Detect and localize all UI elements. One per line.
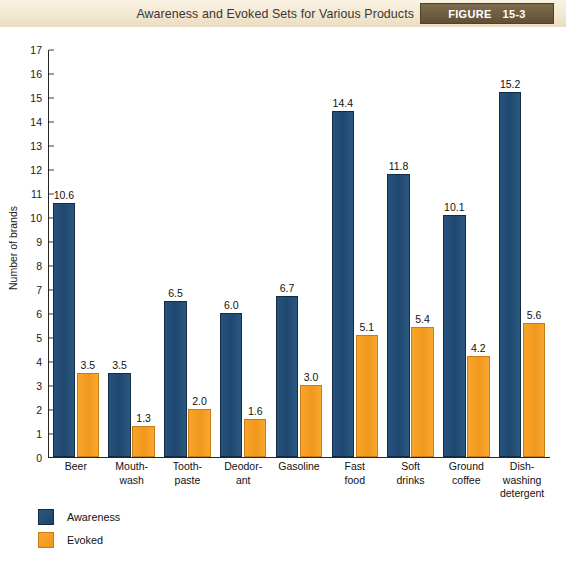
bar-value-label: 1.3 (136, 412, 151, 424)
y-tick-label: 7 (16, 284, 42, 296)
y-tick-mark (49, 170, 54, 171)
bar-value-label: 11.8 (389, 160, 409, 172)
y-tick-label: 13 (16, 140, 42, 152)
y-tick-label: 17 (16, 44, 42, 56)
y-tick-mark (49, 146, 54, 147)
legend-swatch-awareness (38, 509, 54, 525)
y-tick-label: 1 (16, 428, 42, 440)
y-tick-mark (49, 98, 54, 99)
y-tick-label: 14 (16, 116, 42, 128)
figure-page: Awareness and Evoked Sets for Various Pr… (0, 0, 566, 563)
bar-evoked (188, 409, 211, 457)
y-tick-mark (49, 122, 54, 123)
bar-value-label: 14.4 (333, 97, 353, 109)
bar-evoked (132, 426, 155, 457)
bar-awareness (276, 296, 299, 457)
bar-value-label: 4.2 (471, 342, 486, 354)
bar-chart: Number of brands 01234567891011121314151… (0, 27, 566, 563)
bar-awareness (499, 92, 522, 457)
plot-area: 0123456789101112131415161710.63.5Beer3.5… (48, 50, 550, 458)
legend-swatch-evoked (38, 532, 54, 548)
bar-value-label: 6.0 (224, 299, 239, 311)
bar-value-label: 5.1 (359, 321, 374, 333)
bar-awareness (332, 111, 355, 457)
x-tick-label: Dish- washing detergent (483, 460, 561, 501)
y-tick-label: 16 (16, 68, 42, 80)
legend-item: Evoked (38, 528, 120, 551)
y-tick-label: 12 (16, 164, 42, 176)
bar-evoked (244, 419, 267, 457)
y-tick-label: 9 (16, 236, 42, 248)
bar-awareness (387, 174, 410, 457)
y-tick-label: 3 (16, 380, 42, 392)
y-tick-mark (49, 50, 54, 51)
bar-value-label: 1.6 (248, 405, 263, 417)
legend-label: Evoked (67, 534, 103, 546)
bar-value-label: 3.5 (112, 359, 127, 371)
y-tick-label: 10 (16, 212, 42, 224)
bar-value-label: 6.5 (168, 287, 183, 299)
bar-evoked (300, 385, 323, 457)
bar-value-label: 2.0 (192, 395, 207, 407)
bar-evoked (467, 356, 490, 457)
y-tick-label: 4 (16, 356, 42, 368)
y-tick-label: 15 (16, 92, 42, 104)
figure-number-badge: FIGURE 15-3 (420, 3, 554, 24)
bar-awareness (443, 215, 466, 457)
bar-awareness (220, 313, 243, 457)
bar-value-label: 15.2 (500, 78, 520, 90)
bar-value-label: 3.0 (304, 371, 319, 383)
bar-value-label: 6.7 (280, 282, 295, 294)
legend-label: Awareness (67, 511, 120, 523)
page-footer-ghost (0, 553, 566, 563)
y-tick-label: 8 (16, 260, 42, 272)
bar-evoked (411, 327, 434, 457)
figure-label: FIGURE (448, 8, 491, 20)
legend-item: Awareness (38, 505, 120, 528)
y-tick-label: 2 (16, 404, 42, 416)
bar-value-label: 10.1 (444, 201, 464, 213)
bar-evoked (523, 323, 546, 457)
bar-evoked (356, 335, 379, 457)
bar-value-label: 5.4 (415, 313, 430, 325)
figure-title: Awareness and Evoked Sets for Various Pr… (0, 0, 414, 27)
bar-value-label: 3.5 (81, 359, 96, 371)
bar-value-label: 5.6 (527, 309, 542, 321)
chart-legend: AwarenessEvoked (38, 505, 120, 551)
figure-number: 15-3 (503, 8, 526, 20)
bar-awareness (164, 301, 187, 457)
bar-value-label: 10.6 (54, 189, 74, 201)
bar-awareness (108, 373, 131, 457)
y-tick-label: 11 (16, 188, 42, 200)
y-tick-label: 6 (16, 308, 42, 320)
bar-evoked (77, 373, 100, 457)
bar-awareness (53, 203, 76, 457)
y-tick-mark (49, 74, 54, 75)
y-tick-label: 5 (16, 332, 42, 344)
figure-header-band: Awareness and Evoked Sets for Various Pr… (0, 0, 566, 27)
